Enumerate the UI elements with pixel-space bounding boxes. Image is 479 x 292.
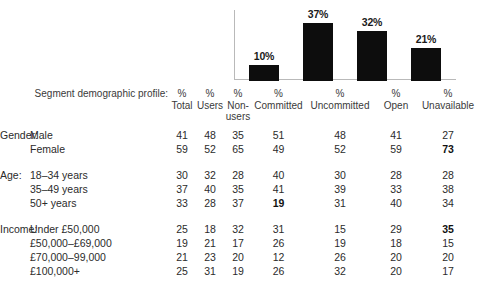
table-cell-value: 31 <box>305 196 375 210</box>
bar-group-unavailable: 21% <box>399 4 453 81</box>
column-header-label: Total <box>168 100 196 111</box>
bar-value-label: 37% <box>308 8 329 20</box>
table-row: £50,000–£69,00019211726191815 <box>0 236 479 250</box>
row-category-label: Under £50,000 <box>30 222 168 236</box>
table-cell-value: 32 <box>305 264 375 278</box>
bar-group-uncommitted: 37% <box>291 4 345 81</box>
table-cell-value: 28 <box>196 196 224 210</box>
table-cell-value: 37 <box>224 196 252 210</box>
table-cell-value: 32 <box>224 222 252 236</box>
table-cell-value: 19 <box>305 236 375 250</box>
group-label: Gender: <box>0 128 30 142</box>
row-category-label: 50+ years <box>30 196 168 210</box>
table-cell-value: 37 <box>168 182 196 196</box>
table-cell-value: 39 <box>305 182 375 196</box>
table-cell-value: 59 <box>168 142 196 156</box>
table-cell-value: 20 <box>375 250 417 264</box>
column-header-label: Open <box>375 100 417 111</box>
table-row: 35–49 years37403541393338 <box>0 182 479 196</box>
percent-symbol: % <box>252 88 305 100</box>
percent-symbol: % <box>168 88 196 100</box>
column-header-label: Committed <box>252 100 305 111</box>
percent-symbol: % <box>196 88 224 100</box>
table-cell-value: 33 <box>375 182 417 196</box>
segment-profile-label: Segment demographic profile: <box>0 88 168 122</box>
table-cell-value: 41 <box>375 128 417 142</box>
table-cell-value: 51 <box>252 128 305 142</box>
table-cell-value: 35 <box>224 128 252 142</box>
table-cell-value: 26 <box>252 236 305 250</box>
percent-symbol: % <box>375 88 417 100</box>
table-cell-value: 15 <box>417 236 479 250</box>
bar-group-open: 32% <box>345 4 399 81</box>
table-cell-value: 12 <box>252 250 305 264</box>
bar-uncommitted <box>303 23 333 81</box>
table-cell-value: 31 <box>196 264 224 278</box>
column-header-committed: % Committed <box>252 88 305 122</box>
row-category-label: Female <box>30 142 168 156</box>
group-label: Age: <box>0 168 30 182</box>
table-cell-value: 17 <box>224 236 252 250</box>
chart-y-axis <box>234 10 235 79</box>
bar-value-label: 10% <box>254 50 275 62</box>
row-category-label: £70,000–99,000 <box>30 250 168 264</box>
table-cell-value: 35 <box>417 222 479 236</box>
row-category-label: £100,000+ <box>30 264 168 278</box>
bar-value-label: 32% <box>362 16 383 28</box>
table-header-row: Segment demographic profile: % Total % U… <box>0 88 479 122</box>
table-cell-value: 23 <box>196 250 224 264</box>
demographic-table: Segment demographic profile: % Total % U… <box>0 88 479 278</box>
bar-committed <box>249 65 279 81</box>
table-cell-value: 18 <box>375 236 417 250</box>
table-cell-value: 19 <box>224 264 252 278</box>
table-cell-value: 26 <box>252 264 305 278</box>
table-row: 50+ years33283719314034 <box>0 196 479 210</box>
group-label <box>0 236 30 250</box>
table-row: Gender:Male41483551484127 <box>0 128 479 142</box>
row-spacer <box>0 156 479 168</box>
table-cell-value: 59 <box>375 142 417 156</box>
table-cell-value: 17 <box>417 264 479 278</box>
column-header-unavailable: % Unavailable <box>417 88 479 122</box>
table-cell-value: 41 <box>168 128 196 142</box>
column-header-total: % Total <box>168 88 196 122</box>
group-label: Income: <box>0 222 30 236</box>
table-cell-value: 20 <box>375 264 417 278</box>
column-header-label: Unavailable <box>417 100 479 111</box>
table-cell-value: 19 <box>168 236 196 250</box>
group-label <box>0 142 30 156</box>
group-label <box>0 196 30 210</box>
table-cell-value: 40 <box>375 196 417 210</box>
column-header-users: % Users <box>196 88 224 122</box>
table-cell-value: 65 <box>224 142 252 156</box>
column-header-uncommitted: % Uncommitted <box>305 88 375 122</box>
table-cell-value: 52 <box>196 142 224 156</box>
table-cell-value: 40 <box>196 182 224 196</box>
table-cell-value: 52 <box>305 142 375 156</box>
bar-open <box>357 31 387 81</box>
column-header-label: Uncommitted <box>305 100 375 111</box>
row-category-label: 18–34 years <box>30 168 168 182</box>
bar-group-committed: 10% <box>237 4 291 81</box>
table-cell-value: 30 <box>305 168 375 182</box>
table-cell-value: 73 <box>417 142 479 156</box>
group-label <box>0 264 30 278</box>
table-cell-value: 18 <box>196 222 224 236</box>
row-category-label: Male <box>30 128 168 142</box>
group-label <box>0 182 30 196</box>
table-cell-value: 20 <box>417 250 479 264</box>
percent-symbol: % <box>305 88 375 100</box>
table-cell-value: 30 <box>168 168 196 182</box>
table-cell-value: 15 <box>305 222 375 236</box>
table-cell-value: 28 <box>417 168 479 182</box>
table-row: £100,000+25311926322017 <box>0 264 479 278</box>
table-cell-value: 41 <box>252 182 305 196</box>
row-category-label: £50,000–£69,000 <box>30 236 168 250</box>
row-category-label: 35–49 years <box>30 182 168 196</box>
table-cell-value: 29 <box>375 222 417 236</box>
table-cell-value: 32 <box>196 168 224 182</box>
column-header-non-users: % Non-users <box>224 88 252 122</box>
table-cell-value: 27 <box>417 128 479 142</box>
table-cell-value: 48 <box>305 128 375 142</box>
